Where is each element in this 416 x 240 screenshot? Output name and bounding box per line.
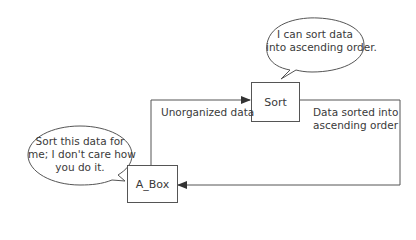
sort-bubble-line-2: into ascending order. (266, 41, 364, 54)
sort-bubble-line-1: I can sort data (266, 28, 364, 41)
edge-label-line-1: Data sorted into (313, 106, 398, 119)
edge-label-unorganized: Unorganized data (161, 106, 254, 119)
a-box-bubble-text: Sort this data for me; I don't care how … (28, 135, 132, 174)
a-box-bubble-line-3: you do it. (28, 161, 132, 174)
a-box-bubble-line-1: Sort this data for (28, 135, 132, 148)
a-box-node: A_Box (127, 165, 178, 203)
a-box-node-label: A_Box (136, 178, 169, 191)
sort-node: Sort (251, 82, 300, 122)
sort-bubble-text: I can sort data into ascending order. (266, 28, 364, 54)
edge-label-text: Unorganized data (161, 106, 254, 118)
a-box-bubble-line-2: me; I don't care how (28, 148, 132, 161)
edge-label-line-2: ascending order (313, 119, 398, 132)
sort-node-label: Sort (264, 96, 287, 109)
edge-label-sorted: Data sorted into ascending order (313, 106, 398, 132)
